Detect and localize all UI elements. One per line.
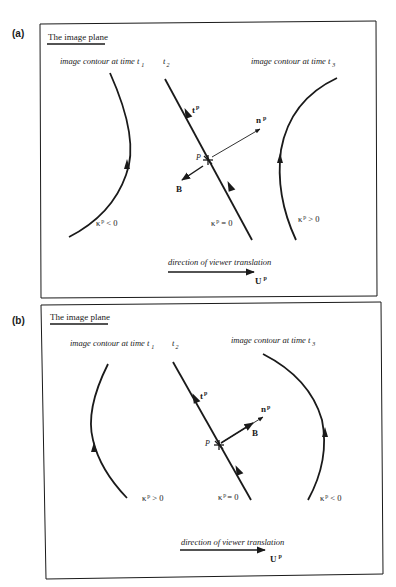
- panel-b-contour-t1-arrow-icon: [91, 442, 97, 452]
- panel-a-t2-label: t2: [163, 56, 169, 68]
- panel-a: The image plane image contour at time t1…: [40, 21, 377, 298]
- panel-b-translation-label: direction of viewer translation: [181, 537, 284, 547]
- panel-b-right-curvature: κp< 0: [320, 493, 341, 503]
- panel-a-velocity-label: Up: [255, 275, 268, 286]
- panel-b-left-curvature: κp> 0: [142, 493, 163, 503]
- panel-b-contour-t3-label: image contour at time t3: [231, 335, 315, 347]
- panel-b-contour-t3: [263, 354, 324, 500]
- panel-b-binormal-vector: [221, 423, 253, 443]
- panel-b-t2-label: t2: [172, 338, 178, 350]
- panel-b-header: The image plane: [50, 312, 110, 322]
- panel-a-binormal-vector: [182, 166, 203, 180]
- diagram-canvas: The image plane image contour at time t1…: [0, 0, 396, 587]
- panel-a-right-curvature: κp> 0: [298, 214, 319, 224]
- panel-b-middle-curvature: κp= 0: [218, 492, 238, 502]
- panel-b-binormal-label: B: [252, 428, 258, 438]
- panel-a-point-P-icon: [203, 155, 213, 165]
- panel-a-tangent-label: tp: [192, 104, 200, 115]
- panel-a-contour-t1-label: image contour at time t1: [60, 56, 144, 68]
- panel-a-contour-t3-label: image contour at time t3: [251, 56, 335, 68]
- panel-b-point-P-label: P: [204, 439, 210, 448]
- panel-a-point-P-label: P: [195, 153, 201, 162]
- panel-a-contour-t3-arrow-icon: [277, 153, 283, 163]
- panel-a-middle-curvature: κp= 0: [211, 218, 232, 228]
- panel-a-translation-label: direction of viewer translation: [168, 257, 271, 267]
- panel-b-normal-label: np: [261, 404, 271, 414]
- panel-b-velocity-label: Up: [270, 553, 283, 564]
- panel-a-normal-vector: [212, 129, 260, 157]
- panel-b-contour-t1-label: image contour at time t1: [70, 338, 154, 350]
- panel-b: The image plane image contour at time t1…: [41, 302, 383, 579]
- panel-a-contour-t1: [69, 73, 130, 237]
- panel-a-left-curvature: κp< 0: [96, 218, 117, 228]
- panel-a-header: The image plane: [48, 32, 108, 42]
- panel-a-binormal-label: B: [176, 184, 182, 194]
- panel-b-contour-t1: [91, 364, 127, 498]
- panel-a-normal-label: np: [256, 115, 267, 125]
- panel-b-tangent-label: tp: [200, 390, 208, 401]
